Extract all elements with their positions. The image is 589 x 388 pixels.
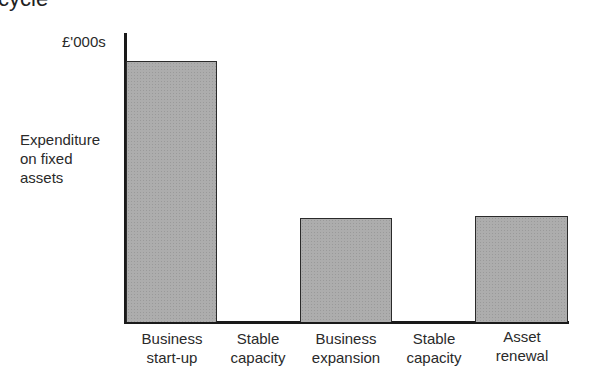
x-label-line: start-up (122, 348, 222, 367)
y-axis-unit-label: £'000s (62, 33, 106, 50)
x-label-stable-capacity-2: Stable capacity (384, 329, 484, 367)
y-axis-label: Expenditure on fixed assets (20, 130, 130, 187)
x-label-business-start-up: Business start-up (122, 329, 222, 367)
bar-asset-renewal (475, 216, 568, 322)
x-label-line: Business (122, 329, 222, 348)
x-label-line: Stable (384, 329, 484, 348)
bar-business-start-up (126, 61, 217, 322)
x-label-line: capacity (384, 348, 484, 367)
y-axis-label-line: on fixed (20, 149, 130, 168)
x-label-asset-renewal: Asset renewal (472, 327, 572, 365)
x-label-line: expansion (296, 348, 396, 367)
bar-business-expansion (300, 218, 392, 322)
x-label-line: Business (296, 329, 396, 348)
x-label-stable-capacity-1: Stable capacity (208, 329, 308, 367)
x-label-line: capacity (208, 348, 308, 367)
x-label-line: Asset (472, 327, 572, 346)
x-label-business-expansion: Business expansion (296, 329, 396, 367)
cut-off-title: cycle (0, 0, 48, 12)
x-label-line: renewal (472, 346, 572, 365)
x-label-line: Stable (208, 329, 308, 348)
y-axis-label-line: assets (20, 168, 130, 187)
y-axis-label-line: Expenditure (20, 130, 130, 149)
